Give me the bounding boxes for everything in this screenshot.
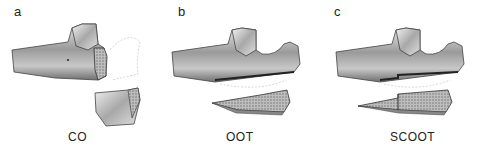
panel-letter: b [178,4,185,19]
panel-letter: a [14,4,21,19]
panel-a: a CO [0,0,160,155]
panel-b: b OOT [160,0,320,155]
panel-label: OOT [226,130,254,144]
panel-c: c SCOOT [317,0,477,155]
panel-label: SCOOT [390,130,435,144]
panel-letter: c [334,4,341,19]
panel-label: CO [68,130,87,144]
